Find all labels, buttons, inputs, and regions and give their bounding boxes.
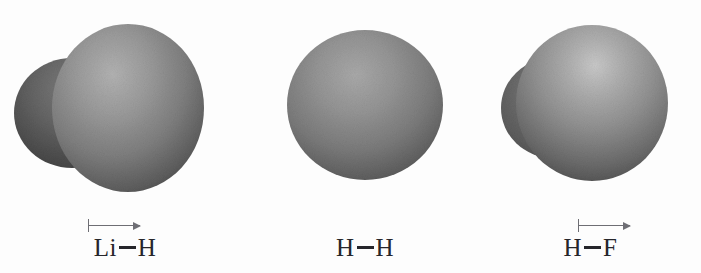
bond-label-hf: HF bbox=[480, 234, 701, 262]
bond-dash-icon bbox=[584, 246, 601, 249]
hh-surface-container bbox=[250, 0, 480, 215]
dipole-arrow-lih bbox=[88, 219, 140, 233]
dihydrogen-electron-density-surface bbox=[250, 0, 480, 215]
molecular-dipole-figure: LiH bbox=[0, 0, 701, 273]
bond-label-lih-left-atom: Li bbox=[94, 234, 117, 261]
bond-label-lih: LiH bbox=[0, 234, 250, 262]
bond-label-hh: HH bbox=[250, 234, 480, 262]
dipole-arrowhead-icon bbox=[133, 222, 141, 230]
bond-label-hf-right-atom: F bbox=[603, 234, 617, 261]
dipole-arrowhead-icon bbox=[623, 222, 631, 230]
molecule-panel-hh: HH bbox=[250, 0, 480, 273]
hf-surface-container bbox=[480, 0, 701, 215]
bond-label-hh-left-atom: H bbox=[336, 234, 354, 261]
bond-label-hf-left-atom: H bbox=[564, 234, 582, 261]
bond-dash-icon bbox=[119, 246, 136, 249]
lithium-hydride-electron-density-surface bbox=[0, 0, 250, 215]
molecule-panel-lih: LiH bbox=[0, 0, 250, 273]
bond-dash-icon bbox=[357, 246, 374, 249]
hydrogen-fluoride-electron-density-surface bbox=[480, 0, 701, 215]
bond-label-lih-right-atom: H bbox=[138, 234, 156, 261]
dipole-arrow-hf bbox=[578, 219, 630, 233]
molecule-panel-hf: HF bbox=[480, 0, 701, 273]
lih-surface-container bbox=[0, 0, 250, 215]
bond-label-hh-right-atom: H bbox=[376, 234, 394, 261]
